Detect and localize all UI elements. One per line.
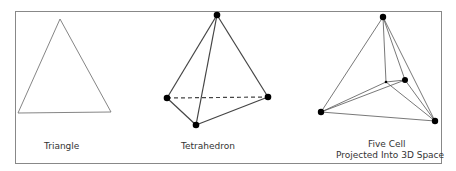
vertex-dot bbox=[164, 95, 171, 102]
vertex-dot bbox=[265, 94, 272, 101]
vertex-dot bbox=[385, 81, 388, 84]
tetrahedron-label: Tetrahedron bbox=[181, 141, 235, 151]
vertex-dot bbox=[432, 118, 438, 124]
five-cell-label: Five Cell bbox=[368, 139, 406, 149]
vertex-dot bbox=[214, 12, 221, 19]
tetrahedron-figure bbox=[164, 12, 272, 129]
five-cell-figure bbox=[318, 14, 438, 124]
vertex-dot bbox=[318, 109, 324, 115]
triangle-label: Triangle bbox=[44, 141, 79, 151]
triangle-figure bbox=[18, 19, 111, 113]
five-cell-sublabel: Projected Into 3D Space bbox=[336, 150, 444, 160]
vertex-dot bbox=[193, 122, 200, 129]
vertex-dot bbox=[380, 14, 386, 20]
vertex-dot bbox=[402, 77, 408, 83]
